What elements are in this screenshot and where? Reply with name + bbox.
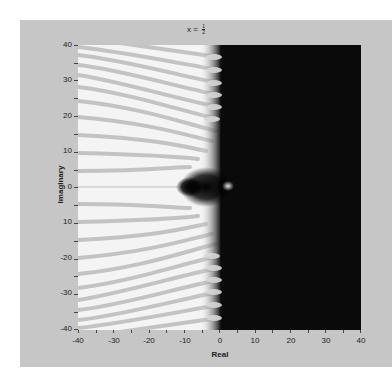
x-tick-mark <box>96 330 97 333</box>
y-tick-mark <box>74 98 78 99</box>
x-tick-mark <box>202 330 203 333</box>
x-tick-mark <box>255 330 256 333</box>
y-tick-mark <box>74 241 78 242</box>
x-tick-mark <box>290 330 291 333</box>
y-tick-mark <box>74 259 78 260</box>
x-tick-label: 20 <box>276 336 306 345</box>
y-tick-mark <box>74 170 78 171</box>
x-tick-mark <box>131 330 132 333</box>
y-tick-mark <box>74 134 78 135</box>
y-tick-mark <box>74 312 78 313</box>
y-tick-label: 20 <box>42 111 72 120</box>
x-tick-mark <box>78 330 79 333</box>
x-tick-mark <box>149 330 150 333</box>
x-tick-label: -30 <box>99 336 129 345</box>
heatmap-image <box>78 45 361 330</box>
x-tick-mark <box>166 330 167 333</box>
x-tick-mark <box>237 330 238 333</box>
x-tick-mark <box>113 330 114 333</box>
x-tick-mark <box>272 330 273 333</box>
x-tick-label: 40 <box>346 336 376 345</box>
x-tick-label: 0 <box>205 336 235 345</box>
y-tick-mark <box>74 205 78 206</box>
chart-title: x = 1 2 <box>0 24 392 35</box>
y-tick-mark <box>74 276 78 277</box>
x-tick-mark <box>184 330 185 333</box>
x-axis-label: Real <box>190 350 250 359</box>
y-tick-mark <box>74 187 78 188</box>
title-denominator: 2 <box>202 29 205 35</box>
y-tick-label: -20 <box>42 253 72 262</box>
y-tick-label: 30 <box>42 75 72 84</box>
x-tick-label: 10 <box>240 336 270 345</box>
plot-area <box>78 45 361 330</box>
y-tick-label: 40 <box>42 40 72 49</box>
x-tick-label: -20 <box>134 336 164 345</box>
y-tick-label: -30 <box>42 288 72 297</box>
y-tick-mark <box>74 80 78 81</box>
y-tick-mark <box>74 116 78 117</box>
y-axis-label: Imaginary <box>56 155 65 215</box>
title-lhs: x = <box>187 25 198 34</box>
x-tick-mark <box>360 330 361 333</box>
x-tick-mark <box>325 330 326 333</box>
y-tick-mark <box>74 152 78 153</box>
y-tick-mark <box>74 45 78 46</box>
y-tick-label: 10 <box>42 217 72 226</box>
x-tick-mark <box>219 330 220 333</box>
x-tick-label: 30 <box>311 336 341 345</box>
y-tick-mark <box>74 223 78 224</box>
title-fraction: 1 2 <box>202 24 205 35</box>
x-tick-mark <box>308 330 309 333</box>
y-tick-mark <box>74 294 78 295</box>
y-tick-mark <box>74 63 78 64</box>
y-tick-label: -40 <box>42 324 72 333</box>
x-tick-label: -40 <box>63 336 93 345</box>
x-tick-label: -10 <box>170 336 200 345</box>
x-tick-mark <box>343 330 344 333</box>
